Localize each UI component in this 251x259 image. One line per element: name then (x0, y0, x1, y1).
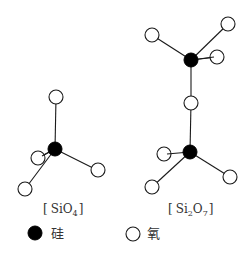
silicon-atom (183, 145, 197, 159)
si2o7-structure: [Si2O7] (145, 17, 237, 218)
oxygen-atom (18, 182, 32, 196)
bridging-oxygen-atom (184, 96, 198, 110)
si2o7-label: [Si2O7] (168, 202, 213, 218)
oxygen-atom (221, 17, 235, 31)
silicon-atom (48, 142, 62, 156)
oxygen-legend-icon (126, 227, 140, 241)
oxygen-atom (91, 163, 105, 177)
oxygen-atom (145, 180, 159, 194)
oxygen-legend-label: 氧 (147, 226, 160, 241)
legend: 硅 氧 (28, 226, 160, 241)
oxygen-atom (49, 90, 63, 104)
oxygen-atom (145, 28, 159, 42)
oxygen-atom (31, 151, 45, 165)
silicate-structure-diagram: [SiO4] [Si2O7] 硅 氧 (0, 0, 251, 259)
bond (55, 98, 56, 149)
oxygen-atom (223, 170, 237, 184)
sio4-label: [SiO4] (43, 202, 83, 218)
silicon-legend-icon (28, 226, 42, 240)
silicon-legend-label: 硅 (51, 226, 64, 241)
sio4-structure: [SiO4] (18, 90, 105, 218)
silicon-atom (184, 53, 198, 67)
